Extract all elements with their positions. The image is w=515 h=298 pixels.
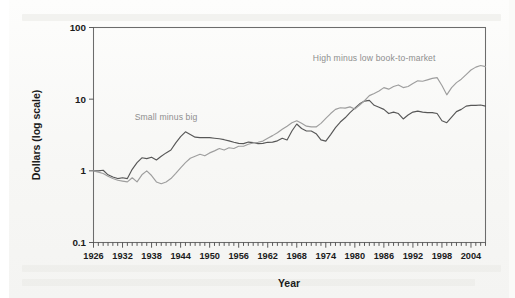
x-tick-label: 1950 xyxy=(199,251,219,261)
series-annotation: Small minus big xyxy=(135,112,198,122)
y-tick-label: 1 xyxy=(81,165,87,176)
series-annotations: Small minus bigHigh minus low book-to-ma… xyxy=(135,53,436,121)
series-annotation: High minus low book-to-market xyxy=(313,53,436,63)
y-tick-label: 0.1 xyxy=(72,237,86,248)
x-tick-label: 1956 xyxy=(228,251,248,261)
data-series-group xyxy=(94,66,486,184)
x-axis-tick-labels: 1926193219381944195019561962196819741980… xyxy=(83,251,482,261)
x-tick-label: 1932 xyxy=(112,251,132,261)
x-axis-title: Year xyxy=(278,277,300,289)
y-axis-ticks xyxy=(89,28,94,243)
x-tick-label: 1968 xyxy=(287,251,307,261)
x-tick-label: 2004 xyxy=(461,251,482,261)
x-tick-label: 1986 xyxy=(374,251,394,261)
x-tick-label: 1974 xyxy=(316,251,337,261)
x-tick-label: 1944 xyxy=(170,251,191,261)
x-tick-label: 1992 xyxy=(403,251,423,261)
series-line-high-minus-low xyxy=(94,66,486,184)
y-axis-tick-labels: 0.1110100 xyxy=(70,22,87,248)
x-tick-label: 1926 xyxy=(83,251,103,261)
chart-figure: 0.1110100 192619321938194419501956196219… xyxy=(0,0,515,298)
y-tick-label: 100 xyxy=(70,22,87,33)
y-axis-title: Dollars (log scale) xyxy=(30,90,42,180)
x-axis-minor-ticks xyxy=(94,243,486,248)
x-tick-label: 1962 xyxy=(257,251,277,261)
x-tick-label: 1980 xyxy=(345,251,365,261)
y-tick-label: 10 xyxy=(75,94,86,105)
x-tick-label: 1998 xyxy=(432,251,452,261)
page-background: 0.1110100 192619321938194419501956196219… xyxy=(0,0,515,298)
x-tick-label: 1938 xyxy=(141,251,161,261)
